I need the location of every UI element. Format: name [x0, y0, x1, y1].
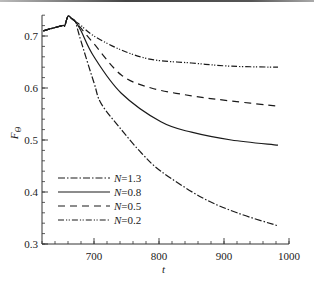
legend-label: N=0.2	[113, 214, 141, 226]
x-tick-label: 900	[216, 250, 233, 262]
legend-label: N=0.5	[113, 200, 142, 212]
axes: 70080090010000.30.40.50.60.7tFΘ	[8, 15, 301, 275]
x-tick-label: 1000	[278, 250, 301, 262]
y-tick-label: 0.5	[24, 134, 38, 146]
series-n-0-5	[43, 16, 278, 106]
y-tick-label: 0.3	[24, 238, 38, 250]
y-tick-label: 0.6	[24, 82, 38, 94]
y-tick-label: 0.7	[24, 30, 38, 42]
series-n-0-8	[43, 16, 278, 145]
y-axis-title: FΘ	[8, 127, 23, 141]
x-tick-label: 700	[86, 250, 103, 262]
plot-curves	[43, 16, 278, 226]
x-axis-title: t	[162, 263, 166, 275]
legend: N=1.3N=0.8N=0.5N=0.2	[58, 172, 142, 226]
legend-label: N=0.8	[113, 186, 142, 198]
x-tick-label: 800	[151, 250, 168, 262]
line-chart: 70080090010000.30.40.50.60.7tFΘ N=1.3N=0…	[0, 0, 314, 282]
series-n-0-2	[43, 16, 278, 67]
legend-label: N=1.3	[113, 172, 142, 184]
y-tick-label: 0.4	[24, 186, 38, 198]
series-n-1-3	[43, 16, 278, 226]
